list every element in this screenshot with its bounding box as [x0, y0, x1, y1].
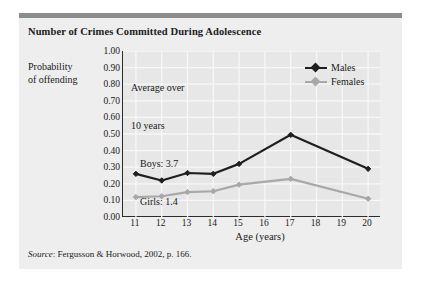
x-tick-label: 20 — [355, 218, 379, 228]
y-tick-label: 0.60 — [92, 112, 120, 122]
x-tick-label: 12 — [149, 218, 173, 228]
x-tick-label: 15 — [226, 218, 250, 228]
y-tick-label: 0.10 — [92, 195, 120, 205]
y-tick-label: 0.70 — [92, 96, 120, 106]
legend-item-females[interactable]: Females — [305, 75, 381, 88]
data-point-marker — [288, 176, 293, 181]
x-axis-title: Age (years) — [120, 231, 400, 242]
y-tick-label: 0.50 — [92, 129, 120, 139]
data-point-marker — [185, 189, 190, 194]
chart-legend: MalesFemales — [305, 61, 381, 89]
data-point-marker — [211, 189, 216, 194]
figure-card: Number of Crimes Committed During Adoles… — [19, 13, 402, 269]
source-label: Source — [28, 249, 53, 259]
y-tick-label: 0.90 — [92, 63, 120, 73]
y-tick-label: 1.00 — [92, 46, 120, 56]
annotation-line-2: 10 years — [131, 120, 184, 133]
x-tick-label: 13 — [175, 218, 199, 228]
legend-marker-icon — [305, 76, 327, 87]
source-text: : Fergusson & Horwood, 2002, p. 166. — [53, 249, 192, 259]
data-point-marker — [236, 182, 241, 187]
source-caption: Source: Fergusson & Horwood, 2002, p. 16… — [28, 249, 192, 259]
legend-label: Females — [331, 76, 364, 87]
y-tick-label: 0.80 — [92, 79, 120, 89]
x-tick-label: 18 — [304, 218, 328, 228]
plot-annotation: Average over 10 years Boys: 3.7 Girls: 1… — [131, 57, 184, 233]
legend-item-males[interactable]: Males — [305, 61, 381, 74]
x-tick-label: 19 — [329, 218, 353, 228]
annotation-line-1: Average over — [131, 82, 184, 95]
y-tick-label: 0.00 — [92, 212, 120, 222]
legend-label: Males — [331, 62, 355, 73]
legend-marker-icon — [305, 62, 327, 73]
top-rule-divider — [19, 13, 402, 18]
annotation-line-4: Girls: 1.4 — [131, 196, 184, 209]
data-point-marker — [185, 170, 190, 175]
annotation-line-3: Boys: 3.7 — [131, 158, 184, 171]
x-tick-label: 16 — [252, 218, 276, 228]
y-tick-label: 0.40 — [92, 146, 120, 156]
x-tick-label: 11 — [123, 218, 147, 228]
x-tick-label: 14 — [200, 218, 224, 228]
y-axis-tick-labels: 1.000.900.800.700.600.500.400.300.200.10… — [90, 51, 120, 221]
y-tick-label: 0.20 — [92, 179, 120, 189]
y-tick-label: 0.30 — [92, 162, 120, 172]
x-tick-label: 17 — [278, 218, 302, 228]
page-title: Number of Crimes Committed During Adoles… — [28, 26, 388, 37]
